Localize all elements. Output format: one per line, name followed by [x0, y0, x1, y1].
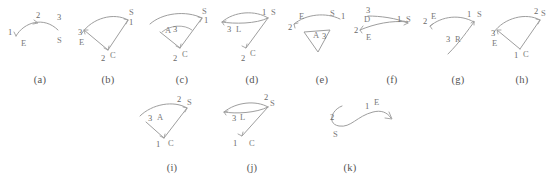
panel-k-drawing	[295, 90, 405, 156]
label-e-1: S	[330, 9, 335, 18]
caption-b: (b)	[68, 74, 148, 85]
label-h-3: E	[492, 39, 497, 48]
label-h-2: 3	[491, 29, 495, 38]
panel-j: 2 S 3 L 1 C (j)	[212, 90, 292, 180]
label-k-2: 2	[330, 113, 334, 122]
label-h-5: C	[523, 50, 529, 59]
label-d-0: 1	[262, 8, 266, 17]
label-e-3: 2	[288, 23, 292, 32]
label-a-0: 1	[8, 28, 12, 37]
label-c-1: 1	[204, 16, 208, 25]
caption-k: (k)	[295, 162, 405, 173]
label-e-2: 1	[341, 12, 345, 21]
label-f-2: 1	[397, 15, 401, 24]
label-j-2: 3	[232, 114, 236, 123]
label-f-1: D	[364, 15, 370, 24]
stroke-path-d	[212, 2, 292, 68]
label-g-5: R	[455, 35, 461, 44]
label-k-3: S	[333, 130, 338, 139]
panel-d: 1 S 3 L 2 C (d)	[212, 2, 292, 92]
label-j-1: S	[270, 99, 275, 108]
label-d-1: S	[271, 8, 276, 17]
panel-b: S 1 3 E 2 C (b)	[68, 2, 148, 92]
label-g-0: 2	[423, 17, 427, 26]
label-i-0: 2	[177, 95, 181, 104]
figure-stroke-order-diagrams: 1 2 3 E S (a) S 1 3 E 2 C (b)	[0, 0, 552, 181]
label-k-0: 1	[365, 102, 369, 111]
label-a-4: S	[57, 36, 62, 45]
label-h-1: S	[541, 9, 546, 18]
label-h-4: 1	[514, 51, 518, 60]
label-j-3: L	[240, 113, 245, 122]
label-i-3: A	[157, 113, 163, 122]
label-h-0: 2	[534, 7, 538, 16]
panel-c: S 1 A 3 2 C (c)	[142, 2, 222, 92]
label-i-4: 1	[156, 140, 160, 149]
label-j-5: C	[249, 139, 255, 148]
label-i-1: S	[187, 98, 192, 107]
label-j-0: 2	[264, 93, 268, 102]
label-a-2: 3	[57, 13, 61, 22]
label-b-3: E	[79, 38, 84, 47]
label-g-2: 1	[467, 10, 471, 19]
caption-d: (d)	[212, 74, 292, 85]
label-c-3: 3	[173, 25, 177, 34]
panel-h: 2 S 3 E 1 C (h)	[482, 2, 552, 92]
label-c-4: 2	[173, 54, 177, 63]
label-k-1: E	[374, 98, 379, 107]
label-b-2: 3	[78, 28, 82, 37]
label-c-2: A	[165, 26, 171, 35]
label-b-0: S	[129, 8, 134, 17]
label-g-1: E	[431, 12, 436, 21]
label-i-2: 3	[148, 114, 152, 123]
panel-e: E S 1 2 A 3 (e)	[282, 2, 362, 92]
label-d-5: C	[250, 49, 256, 58]
label-d-2: 3	[227, 25, 231, 34]
panel-i: 2 S 3 A 1 C (i)	[132, 90, 212, 180]
label-f-5: E	[366, 33, 371, 42]
label-b-5: C	[110, 51, 116, 60]
label-e-0: E	[299, 12, 304, 21]
label-d-4: 2	[241, 54, 245, 63]
label-f-3: S	[406, 15, 411, 24]
stroke-path-k	[295, 90, 405, 156]
caption-c: (c)	[142, 74, 222, 85]
label-g-4: 3	[446, 35, 450, 44]
label-e-5: 3	[322, 32, 326, 41]
label-e-4: A	[313, 31, 319, 40]
caption-h: (h)	[482, 74, 552, 85]
panel-k: 1 E 2 S (k)	[295, 90, 405, 180]
caption-e: (e)	[282, 74, 362, 85]
panel-d-drawing	[212, 2, 292, 68]
label-c-5: C	[182, 50, 188, 59]
label-a-3: E	[21, 39, 26, 48]
label-f-4: 2	[354, 26, 358, 35]
label-b-1: 1	[129, 18, 133, 27]
label-d-3: L	[236, 25, 241, 34]
caption-j: (j)	[212, 162, 292, 173]
label-i-5: C	[168, 139, 174, 148]
label-b-4: 2	[101, 54, 105, 63]
caption-i: (i)	[132, 162, 212, 173]
label-a-1: 2	[36, 11, 40, 20]
label-j-4: 1	[233, 139, 237, 148]
